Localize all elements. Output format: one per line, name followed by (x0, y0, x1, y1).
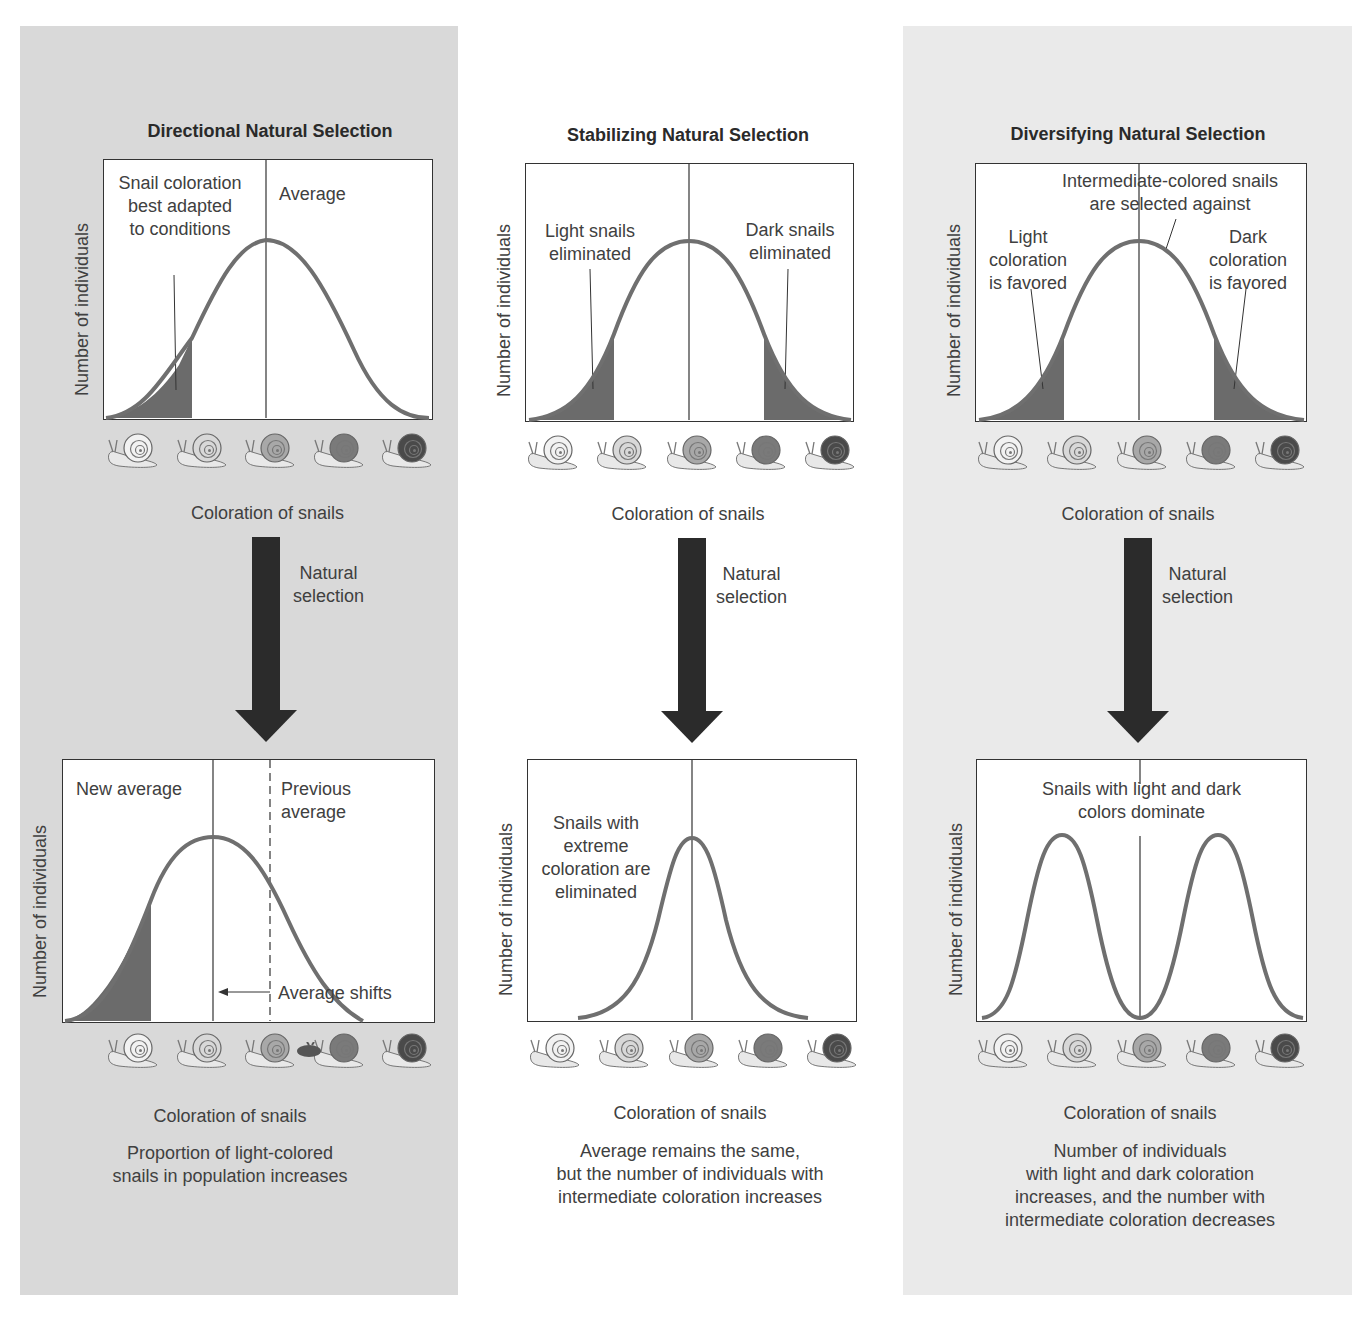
y-axis-label: Number of individuals (944, 224, 965, 397)
snail-lightest-icon (975, 432, 1031, 472)
directional-caption: Proportion of light-colored snails in po… (30, 1142, 430, 1188)
diversifying-caption: Number of individuals with light and dar… (940, 1140, 1340, 1232)
annotation-average-shifts: Average shifts (278, 982, 392, 1005)
snail-light-icon (596, 1030, 652, 1070)
annotation-previous-average: Previous average (281, 778, 351, 824)
snail-dark-icon (1183, 432, 1239, 472)
distribution-curve (529, 241, 851, 420)
x-axis-label: Coloration of snails (490, 1102, 890, 1125)
snail-scale (975, 1030, 1308, 1070)
snail-lightest-icon (975, 1030, 1031, 1070)
snail-dark-icon (733, 432, 789, 472)
down-arrow-icon (235, 537, 297, 742)
snail-light-icon (174, 430, 230, 470)
distribution-curve (982, 835, 1303, 1018)
snail-intermediate-icon (1114, 1030, 1170, 1070)
snail-scale (527, 1030, 860, 1070)
stabilizing-before-plot (525, 163, 854, 422)
annotation-extreme-eliminated: Snails with extreme coloration are elimi… (528, 812, 664, 904)
annotation-light-favored: Light coloration is favored (980, 226, 1076, 295)
down-arrow-icon (661, 538, 723, 743)
snail-light-icon (174, 1030, 230, 1070)
x-axis-label: Coloration of snails (938, 503, 1338, 526)
snail-scale (525, 432, 858, 472)
snail-scale (105, 1030, 435, 1070)
annotation-best-adapted: Snail coloration best adapted to conditi… (100, 172, 260, 241)
shaded-area-left (979, 334, 1064, 420)
snail-intermediate-icon (666, 1030, 722, 1070)
snail-darkest-icon (379, 430, 435, 470)
diversifying-title: Diversifying Natural Selection (903, 124, 1358, 145)
directional-title: Directional Natural Selection (20, 121, 520, 142)
shaded-area (106, 338, 192, 418)
shaded-area (65, 900, 151, 1021)
snail-light-icon (594, 432, 650, 472)
snail-light-icon (1044, 432, 1100, 472)
snail-intermediate-icon (242, 1030, 298, 1070)
snail-darkest-icon (1252, 432, 1308, 472)
annotation-average: Average (279, 183, 346, 206)
y-axis-label: Number of individuals (946, 823, 967, 996)
arrow-label: Natural selection (293, 562, 364, 608)
y-axis-label: Number of individuals (30, 825, 51, 998)
snail-lightest-icon (105, 430, 161, 470)
shaded-area-right (764, 334, 851, 420)
stabilizing-caption: Average remains the same, but the number… (490, 1140, 890, 1209)
annotation-extremes-dominate: Snails with light and dark colors domina… (976, 778, 1307, 824)
snail-intermediate-icon (664, 432, 720, 472)
annotation-new-average: New average (76, 778, 182, 801)
snail-darkest-icon (804, 1030, 860, 1070)
down-arrow-icon (1107, 538, 1169, 743)
y-axis-label: Number of individuals (496, 823, 517, 996)
bird-predator-icon (296, 1042, 322, 1058)
snail-dark-icon (735, 1030, 791, 1070)
snail-lightest-icon (525, 432, 581, 472)
shaded-area-right (1214, 334, 1304, 420)
arrow-label: Natural selection (1162, 563, 1233, 609)
x-axis-label: Coloration of snails (488, 503, 888, 526)
x-axis-label: Coloration of snails (60, 502, 475, 525)
stabilizing-title: Stabilizing Natural Selection (458, 125, 918, 146)
snail-lightest-icon (527, 1030, 583, 1070)
snail-darkest-icon (1252, 1030, 1308, 1070)
x-axis-label: Coloration of snails (940, 1102, 1340, 1125)
snail-darkest-icon (802, 432, 858, 472)
snail-darkest-icon (379, 1030, 435, 1070)
snail-intermediate-icon (1114, 432, 1170, 472)
shaded-area-left (529, 334, 614, 420)
distribution-curve (106, 240, 429, 418)
snail-dark-icon (311, 430, 367, 470)
y-axis-label: Number of individuals (494, 224, 515, 397)
x-axis-label: Coloration of snails (30, 1105, 430, 1128)
annotation-intermediate-against: Intermediate-colored snails are selected… (1030, 170, 1310, 216)
arrow-label: Natural selection (716, 563, 787, 609)
annotation-dark-favored: Dark coloration is favored (1200, 226, 1296, 295)
snail-light-icon (1044, 1030, 1100, 1070)
annotation-light-eliminated: Light snails eliminated (525, 220, 655, 266)
snail-intermediate-icon (242, 430, 298, 470)
snail-lightest-icon (105, 1030, 161, 1070)
annotation-dark-eliminated: Dark snails eliminated (725, 219, 855, 265)
snail-scale (105, 430, 435, 470)
snail-scale (975, 432, 1308, 472)
y-axis-label: Number of individuals (72, 223, 93, 396)
snail-dark-icon (1183, 1030, 1239, 1070)
